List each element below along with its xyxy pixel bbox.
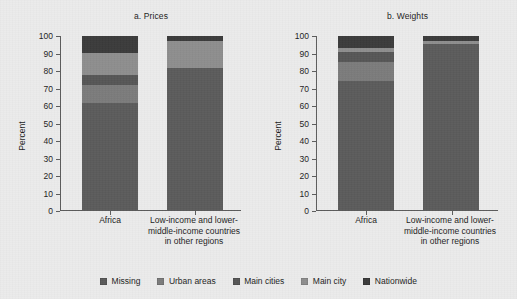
panel-a-x-label-other-regions: Low-income and lower-middle-income count… [144, 215, 244, 247]
legend-item-missing[interactable]: Missing [100, 277, 140, 286]
y-tick-20 [312, 176, 316, 177]
y-tick-50 [56, 124, 60, 125]
legend-item-nationwide[interactable]: Nationwide [363, 277, 417, 286]
panel-a-bar-other-regions [167, 36, 223, 211]
bar-segment-urban-areas [82, 85, 138, 103]
y-tick-100 [56, 36, 60, 37]
y-tick-label-100: 100 [295, 32, 309, 41]
y-tick-90 [56, 54, 60, 55]
panel-a-bar-africa [82, 36, 138, 211]
y-tick-40 [312, 141, 316, 142]
bar-segment-urban-areas [338, 62, 394, 80]
panel-a-title: a. Prices [0, 11, 280, 21]
y-tick-100 [312, 36, 316, 37]
y-tick-0 [312, 211, 316, 212]
y-tick-label-90: 90 [300, 50, 309, 59]
panel-prices: a. Prices Percent 0102030405060708090100… [0, 0, 258, 272]
bar-segment-missing [167, 68, 223, 211]
y-tick-label-80: 80 [300, 67, 309, 76]
y-tick-50 [312, 124, 316, 125]
y-tick-80 [312, 71, 316, 72]
panel-b-plot-area: 0102030405060708090100 Africa Low-income… [316, 36, 492, 211]
panel-a-plot-area: 0102030405060708090100 Africa Low-income… [60, 36, 235, 211]
bar-segment-main-city [82, 53, 138, 75]
y-tick-label-60: 60 [300, 102, 309, 111]
y-tick-70 [56, 89, 60, 90]
panel-b-bar-africa [338, 36, 394, 211]
legend-label: Main city [313, 277, 347, 286]
y-tick-label-20: 20 [300, 172, 309, 181]
y-tick-label-10: 10 [300, 190, 309, 199]
bar-segment-main-cities [82, 75, 138, 86]
panel-b-bar-other-regions [423, 36, 479, 211]
y-tick-90 [312, 54, 316, 55]
y-tick-label-80: 80 [44, 67, 53, 76]
legend-label: Missing [112, 277, 141, 286]
legend-item-main-city[interactable]: Main city [301, 277, 346, 286]
y-tick-40 [56, 141, 60, 142]
y-tick-label-20: 20 [44, 172, 53, 181]
y-tick-label-70: 70 [300, 85, 309, 94]
panel-a-x-label-africa: Africa [64, 215, 156, 226]
legend-swatch-icon [301, 278, 308, 285]
panel-b-y-axis-label: Percent [273, 121, 283, 150]
bar-segment-missing [338, 81, 394, 211]
legend-swatch-icon [100, 278, 107, 285]
y-tick-label-0: 0 [304, 207, 309, 216]
y-tick-70 [312, 89, 316, 90]
y-tick-10 [56, 194, 60, 195]
legend-label: Urban areas [169, 277, 216, 286]
legend-label: Main cities [244, 277, 284, 286]
y-tick-label-50: 50 [44, 120, 53, 129]
bar-segment-main-city [167, 41, 223, 68]
y-tick-80 [56, 71, 60, 72]
chart-legend: MissingUrban areasMain citiesMain cityNa… [0, 277, 517, 293]
y-tick-label-10: 10 [44, 190, 53, 199]
panel-b-x-label-africa: Africa [320, 215, 412, 226]
y-tick-label-100: 100 [39, 32, 53, 41]
legend-swatch-icon [157, 278, 164, 285]
panel-a-y-axis [60, 36, 61, 211]
bar-segment-missing [423, 44, 479, 211]
panel-a-y-axis-label: Percent [17, 121, 27, 150]
bar-segment-nationwide [82, 36, 138, 53]
y-tick-label-40: 40 [300, 137, 309, 146]
y-tick-60 [312, 106, 316, 107]
panel-b-title: b. Weights [258, 11, 517, 21]
panel-weights: b. Weights Percent 010203040506070809010… [258, 0, 517, 272]
y-tick-30 [312, 159, 316, 160]
legend-swatch-icon [363, 278, 370, 285]
y-tick-label-50: 50 [300, 120, 309, 129]
y-tick-label-30: 30 [44, 155, 53, 164]
panel-b-x-label-other-regions: Low-income and lower-middle-income count… [400, 215, 500, 247]
y-tick-30 [56, 159, 60, 160]
legend-label: Nationwide [375, 277, 417, 286]
y-tick-label-40: 40 [44, 137, 53, 146]
y-tick-0 [56, 211, 60, 212]
y-tick-60 [56, 106, 60, 107]
bar-segment-nationwide [338, 36, 394, 48]
y-tick-20 [56, 176, 60, 177]
bar-segment-missing [82, 103, 138, 212]
figure-stacked-bar-charts: a. Prices Percent 0102030405060708090100… [0, 0, 517, 299]
panel-b-y-axis [316, 36, 317, 211]
bar-segment-main-cities [338, 52, 394, 63]
y-tick-label-0: 0 [48, 207, 53, 216]
legend-swatch-icon [233, 278, 240, 285]
legend-item-urban-areas[interactable]: Urban areas [157, 277, 215, 286]
y-tick-label-90: 90 [44, 50, 53, 59]
y-tick-label-60: 60 [44, 102, 53, 111]
y-tick-10 [312, 194, 316, 195]
legend-item-main-cities[interactable]: Main cities [233, 277, 285, 286]
y-tick-label-30: 30 [300, 155, 309, 164]
y-tick-label-70: 70 [44, 85, 53, 94]
